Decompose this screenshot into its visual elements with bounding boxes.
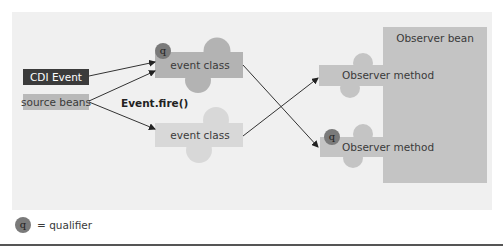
event-fire-label: Event.fire() <box>121 97 188 109</box>
cdi-event-diagram: Observer bean Observer method q Observer… <box>0 0 503 249</box>
observer-method-top-label: Observer method <box>342 69 434 81</box>
observer-bean: Observer bean <box>383 27 487 183</box>
legend: q = qualifier <box>15 217 93 233</box>
cdi-event-label: CDI Event <box>30 71 82 83</box>
svg-text:q: q <box>329 131 336 142</box>
event-class-qualified-label: event class <box>170 59 229 71</box>
observer-bean-label: Observer bean <box>396 32 474 44</box>
qualifier-badge-observer: q <box>324 129 340 145</box>
svg-text:q: q <box>160 45 167 56</box>
cdi-event-node: CDI Event <box>23 69 89 85</box>
observer-method-bottom-label: Observer method <box>342 141 434 153</box>
source-beans-node: source beans <box>21 94 91 110</box>
qualifier-badge-event: q <box>155 43 171 59</box>
bottom-rule <box>0 244 503 246</box>
svg-text:q: q <box>20 219 27 230</box>
source-beans-label: source beans <box>21 96 91 108</box>
event-class-plain-label: event class <box>170 129 229 141</box>
legend-label: = qualifier <box>37 219 93 231</box>
